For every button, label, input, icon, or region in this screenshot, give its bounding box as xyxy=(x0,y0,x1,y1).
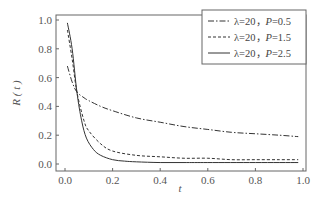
series-line xyxy=(67,66,298,137)
y-tick-label: 0.0 xyxy=(38,158,52,170)
x-tick-label: 0.8 xyxy=(249,174,263,186)
legend-label: λ=20，P=0.5 xyxy=(234,16,291,27)
y-tick-label: 1.0 xyxy=(38,14,52,26)
legend-label: λ=20，P=2.5 xyxy=(234,48,291,59)
x-tick-label: 0.6 xyxy=(201,174,215,186)
x-tick-label: 0.4 xyxy=(153,174,167,186)
legend: λ=20，P=0.5λ=20，P=1.5λ=20，P=2.5 xyxy=(202,10,306,64)
x-axis-label: t xyxy=(178,182,182,194)
x-tick-label: 0.0 xyxy=(58,174,72,186)
x-tick-label: 1.0 xyxy=(296,174,310,186)
x-tick-label: 0.2 xyxy=(106,174,120,186)
y-tick-label: 0.2 xyxy=(38,129,52,141)
line-chart: 0.00.20.40.60.81.00.00.20.40.60.81.0 t R… xyxy=(0,0,325,205)
y-tick-label: 0.4 xyxy=(38,100,52,112)
y-axis-label: R ( t ) xyxy=(10,80,23,107)
y-tick-label: 0.8 xyxy=(38,43,52,55)
legend-label: λ=20，P=1.5 xyxy=(234,32,291,43)
y-tick-label: 0.6 xyxy=(38,72,52,84)
